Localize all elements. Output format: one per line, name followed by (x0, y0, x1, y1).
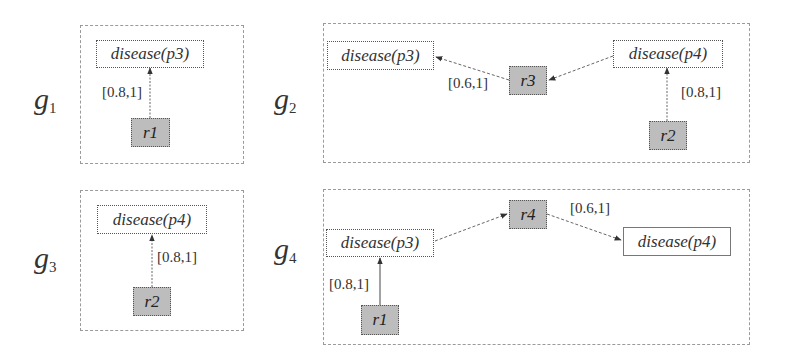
rule-node-label: r1 (143, 123, 158, 143)
rule-node-label: r4 (520, 205, 535, 225)
atom-node-disease-p3[interactable]: disease(p3) (96, 40, 204, 68)
atom-node-label: disease(p3) (111, 44, 189, 64)
edge-label: [0.8,1] (157, 249, 197, 266)
rule-node-r4[interactable]: r4 (509, 200, 547, 229)
graph-label-base: g (274, 82, 289, 115)
graph-label-base: g (34, 82, 49, 115)
graph-label-g4: g4 (274, 234, 297, 266)
atom-node-disease-p4[interactable]: disease(p4) (97, 205, 207, 234)
atom-node-label: disease(p3) (341, 233, 419, 253)
rule-node-r3[interactable]: r3 (509, 66, 547, 95)
rule-node-label: r2 (144, 292, 159, 312)
rule-node-r2[interactable]: r2 (133, 287, 171, 316)
rule-node-label: r2 (660, 126, 675, 146)
edge-label: [0.6,1] (570, 200, 610, 217)
graph-label-base: g (34, 241, 49, 274)
graph-label-sub: 1 (49, 100, 57, 116)
rule-node-r2[interactable]: r2 (649, 121, 687, 150)
graph-label-sub: 3 (49, 259, 57, 275)
atom-node-label: disease(p4) (629, 44, 707, 64)
edge-label: [0.8,1] (102, 84, 142, 101)
rule-node-label: r1 (372, 310, 387, 330)
atom-node-disease-p3[interactable]: disease(p3) (326, 229, 434, 257)
graph-label-g3: g3 (34, 243, 57, 275)
rule-node-r1[interactable]: r1 (131, 118, 170, 147)
atom-node-disease-p4[interactable]: disease(p4) (623, 227, 731, 256)
graph-label-sub: 4 (289, 250, 297, 266)
graph-label-g2: g2 (274, 84, 297, 116)
graph-label-base: g (274, 232, 289, 265)
atom-node-label: disease(p3) (341, 46, 419, 66)
graph-label-sub: 2 (289, 100, 297, 116)
atom-node-label: disease(p4) (638, 232, 716, 252)
atom-node-label: disease(p4) (113, 210, 191, 230)
rule-node-label: r3 (520, 71, 535, 91)
atom-node-disease-p4[interactable]: disease(p4) (613, 40, 723, 68)
graph-label-g1: g1 (34, 84, 57, 116)
edge-label: [0.6,1] (448, 75, 488, 92)
rule-node-r1[interactable]: r1 (361, 305, 399, 335)
edge-label: [0.8,1] (681, 84, 721, 101)
edge-label: [0.8,1] (329, 276, 369, 293)
atom-node-disease-p3[interactable]: disease(p3) (327, 41, 434, 70)
